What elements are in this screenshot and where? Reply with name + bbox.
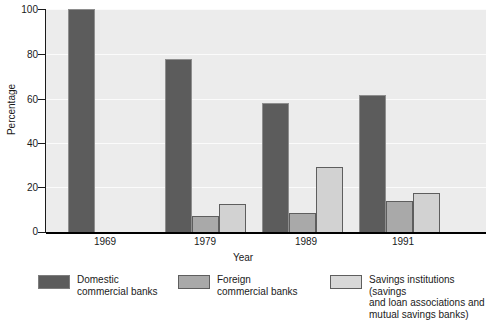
dark-gray-swatch-icon (38, 275, 70, 289)
light-gray-swatch-icon (330, 275, 362, 289)
y-axis-title: Percentage (6, 70, 17, 150)
bar-1979-foreign (192, 216, 219, 233)
bar-1991-domestic (359, 95, 386, 233)
y-tick-mark-20 (38, 187, 45, 188)
bar-1989-foreign (289, 213, 316, 233)
x-tick-label-1991: 1991 (373, 236, 433, 247)
x-tick-label-1979: 1979 (175, 236, 235, 247)
y-tick-mark-80 (38, 54, 45, 55)
y-tick-mark-0 (38, 232, 45, 233)
bar-1969-domestic (68, 9, 95, 233)
gridline-60 (46, 99, 486, 100)
y-tick-label-100: 100 (0, 5, 38, 15)
y-tick-label-40: 40 (0, 139, 38, 149)
gridline-80 (46, 54, 486, 55)
x-axis-title: Year (0, 252, 486, 263)
y-tick-label-80: 80 (0, 50, 38, 60)
bar-1989-savings (316, 167, 343, 233)
x-tick-label-1969: 1969 (75, 236, 135, 247)
legend-label-savings: Savings institutions (savings and loan a… (369, 274, 486, 320)
y-tick-mark-40 (38, 143, 45, 144)
gridline-100 (46, 9, 486, 10)
y-tick-mark-100 (38, 9, 45, 10)
y-tick-label-0: 0 (0, 227, 38, 237)
legend-label-foreign: Foreign commercial banks (217, 274, 298, 297)
bar-chart-figure: Percentage 100 80 60 40 20 0 1969 197 (0, 0, 486, 324)
legend-label-domestic: Domestic commercial banks (77, 274, 158, 297)
plot-area (46, 9, 486, 233)
y-tick-label-60: 60 (0, 95, 38, 105)
bar-1991-savings (413, 193, 440, 233)
legend-item-domestic: Domestic commercial banks (38, 274, 158, 297)
chart-legend: Domestic commercial banks Foreign commer… (0, 274, 486, 322)
x-tick-label-1989: 1989 (276, 236, 336, 247)
y-tick-mark-60 (38, 99, 45, 100)
x-axis-line (46, 232, 486, 234)
bar-1989-domestic (262, 103, 289, 233)
bar-1991-foreign (386, 201, 413, 233)
legend-item-savings: Savings institutions (savings and loan a… (330, 274, 486, 320)
y-tick-label-20: 20 (0, 183, 38, 193)
legend-item-foreign: Foreign commercial banks (178, 274, 298, 297)
bar-1979-savings (219, 204, 246, 233)
medium-gray-swatch-icon (178, 275, 210, 289)
bar-1979-domestic (165, 59, 192, 233)
